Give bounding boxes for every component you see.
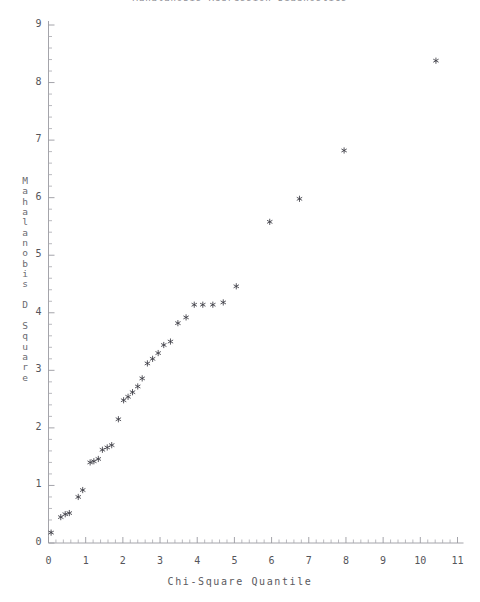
data-point-marker xyxy=(109,442,114,448)
plot-area xyxy=(0,0,480,602)
data-point-marker xyxy=(130,389,135,395)
data-point-marker xyxy=(80,487,85,493)
y-tick-label: 6 xyxy=(28,191,42,202)
x-tick-label: 9 xyxy=(373,555,393,566)
data-point-marker xyxy=(140,375,145,381)
data-point-marker xyxy=(58,514,63,520)
chart-canvas: Mahalanobis Regression Diagnostics Mahal… xyxy=(0,0,480,602)
x-tick-label: 4 xyxy=(187,555,207,566)
data-point-marker xyxy=(221,299,226,305)
y-tick-label: 9 xyxy=(28,18,42,29)
y-tick-label: 7 xyxy=(28,133,42,144)
data-point-marker xyxy=(267,219,272,225)
data-point-marker xyxy=(156,350,161,356)
data-point-marker xyxy=(210,302,215,308)
data-point-marker xyxy=(192,302,197,308)
data-point-marker xyxy=(100,447,105,453)
x-axis-title: Chi-Square Quantile xyxy=(0,576,480,587)
data-point-marker xyxy=(341,147,346,153)
data-point-marker xyxy=(96,456,101,462)
y-tick-label: 8 xyxy=(28,76,42,87)
x-tick-label: 6 xyxy=(262,555,282,566)
x-tick-label: 3 xyxy=(150,555,170,566)
x-tick-label: 7 xyxy=(299,555,319,566)
y-tick-label: 2 xyxy=(28,421,42,432)
data-point-marker xyxy=(183,314,188,320)
data-point-marker xyxy=(48,530,53,536)
data-point-marker xyxy=(433,58,438,64)
x-tick-label: 8 xyxy=(336,555,356,566)
data-point-marker xyxy=(161,342,166,348)
y-tick-label: 4 xyxy=(28,306,42,317)
y-tick-label: 3 xyxy=(28,363,42,374)
x-tick-label: 11 xyxy=(448,555,468,566)
x-tick-label: 0 xyxy=(39,555,59,566)
x-tick-label: 2 xyxy=(113,555,133,566)
y-tick-label: 1 xyxy=(28,478,42,489)
data-points-group xyxy=(48,58,438,536)
data-point-marker xyxy=(76,494,81,500)
data-point-marker xyxy=(150,356,155,362)
x-tick-label: 1 xyxy=(76,555,96,566)
y-tick-label: 5 xyxy=(28,248,42,259)
data-point-marker xyxy=(135,383,140,389)
axes-group xyxy=(49,21,464,543)
data-point-marker xyxy=(116,416,121,422)
data-point-marker xyxy=(175,320,180,326)
data-point-marker xyxy=(200,302,205,308)
data-point-marker xyxy=(297,196,302,202)
data-point-marker xyxy=(234,283,239,289)
data-point-marker xyxy=(168,338,173,344)
x-tick-label: 10 xyxy=(410,555,430,566)
y-tick-label: 0 xyxy=(28,536,42,547)
x-tick-label: 5 xyxy=(224,555,244,566)
data-point-marker xyxy=(145,360,150,366)
data-point-marker xyxy=(105,444,110,450)
